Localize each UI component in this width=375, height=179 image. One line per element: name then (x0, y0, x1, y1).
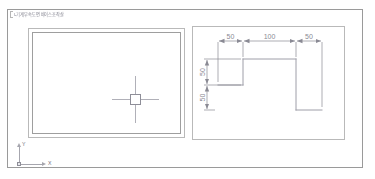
ucs-axis-icon: Y X (16, 141, 58, 169)
viewport-title-label: l-기계부속도면 바이스조작살 (13, 12, 64, 17)
ucs-y-label: Y (22, 141, 25, 147)
ucs-y-arrow-icon (17, 143, 21, 147)
ucs-x-label: X (48, 160, 51, 166)
ucs-x-axis-line (19, 164, 44, 165)
viewport-left-inner-rect (32, 32, 181, 134)
ucs-origin-marker (17, 162, 21, 166)
cad-drawing-screenshot: l-기계부속도면 바이스조작살 Y X (0, 0, 375, 179)
viewport-right[interactable] (192, 26, 345, 140)
ucs-x-arrow-icon (42, 162, 46, 166)
viewport-left[interactable] (28, 28, 185, 138)
viewport-title-strip[interactable]: l-기계부속도면 바이스조작살 (10, 10, 82, 18)
